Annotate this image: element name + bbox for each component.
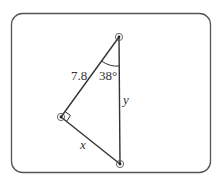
- vertex-markers: [57, 33, 123, 167]
- angle-arc: [102, 61, 120, 66]
- vertex-left-dot: [60, 116, 63, 119]
- side-x: [61, 117, 120, 164]
- frame-border: [12, 14, 211, 173]
- triangle-diagram: 7.8 38° y x: [0, 0, 222, 178]
- label-y: y: [121, 92, 129, 107]
- label-x: x: [79, 137, 86, 152]
- label-angle: 38°: [99, 68, 117, 83]
- label-hypotenuse: 7.8: [71, 68, 87, 83]
- vertex-top-dot: [118, 36, 121, 39]
- triangle: [61, 37, 120, 164]
- side-y: [119, 37, 120, 164]
- vertex-bottom-dot: [119, 163, 122, 166]
